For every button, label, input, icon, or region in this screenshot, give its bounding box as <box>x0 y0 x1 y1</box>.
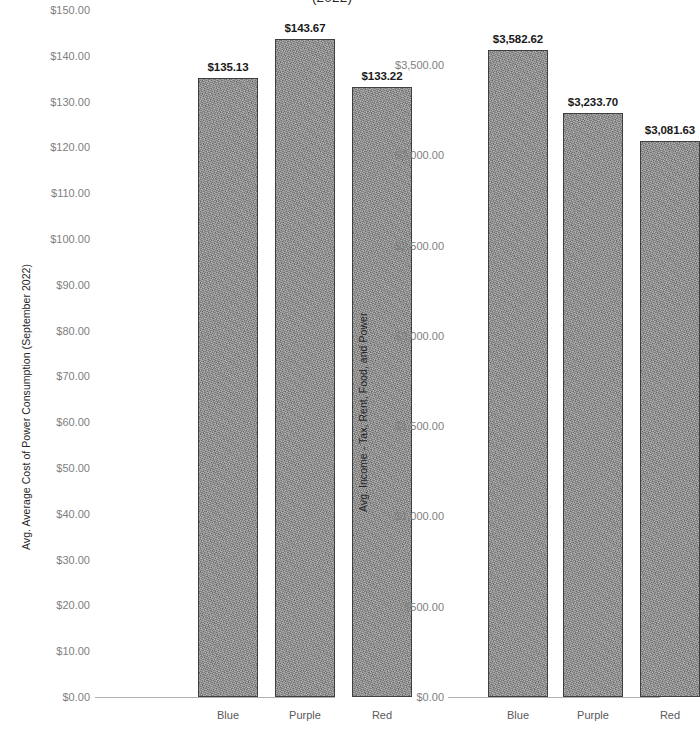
y-axis-ticks-left: $150.00$140.00$130.00$120.00$110.00$100.… <box>22 0 90 730</box>
y-tick-label: $100.00 <box>50 234 90 245</box>
x-axis-line-right <box>448 697 660 698</box>
y-axis-ticks-right: $3,500.00$3,000.00$2,500.00$2,000.00$1,5… <box>358 0 444 730</box>
bar-value-label: $3,233.70 <box>568 96 618 108</box>
y-tick-label: $40.00 <box>56 508 90 519</box>
bar[interactable] <box>275 39 335 697</box>
x-category-label: Purple <box>577 709 609 721</box>
y-tick-label: $20.00 <box>56 600 90 611</box>
y-tick-label: $3,000.00 <box>395 150 444 161</box>
y-tick-label: $0.00 <box>62 692 90 703</box>
bar-value-label: $143.67 <box>285 22 326 34</box>
y-tick-label: $60.00 <box>56 417 90 428</box>
y-tick-label: $110.00 <box>51 188 90 199</box>
x-category-label: Blue <box>507 709 529 721</box>
y-tick-label: $2,500.00 <box>395 240 444 251</box>
bar[interactable] <box>198 78 258 697</box>
y-tick-label: $10.00 <box>56 646 90 657</box>
x-category-label: Purple <box>289 709 321 721</box>
y-tick-label: $500.00 <box>404 601 444 612</box>
x-axis-line-left <box>95 697 335 698</box>
y-tick-label: $70.00 <box>56 371 90 382</box>
bar-value-label: $135.13 <box>208 61 249 73</box>
y-tick-label: $0.00 <box>416 692 444 703</box>
chart-panel-income: Avg. Income - Tax, Rent, Food, and Power… <box>340 0 664 730</box>
y-tick-label: $2,000.00 <box>395 330 444 341</box>
x-category-label: Red <box>660 709 680 721</box>
y-tick-label: $150.00 <box>50 5 90 16</box>
y-tick-label: $30.00 <box>56 554 90 565</box>
y-tick-label: $90.00 <box>56 279 90 290</box>
plot-area-right: $3,582.62Blue$3,233.70Purple$3,081.63Red <box>448 0 660 730</box>
y-tick-label: $1,500.00 <box>395 421 444 432</box>
bar[interactable] <box>563 113 623 697</box>
bar-value-label: $3,582.62 <box>493 33 543 45</box>
x-category-label: Blue <box>217 709 239 721</box>
bar-value-label: $3,081.63 <box>645 124 695 136</box>
plot-area-left: $135.13Blue$143.67Purple$133.22Red <box>95 0 335 730</box>
y-tick-label: $120.00 <box>50 142 90 153</box>
y-tick-label: $1,000.00 <box>395 511 444 522</box>
y-tick-label: $140.00 <box>50 50 90 61</box>
y-tick-label: $3,500.00 <box>395 60 444 71</box>
bar[interactable] <box>640 141 700 697</box>
bar[interactable] <box>488 50 548 697</box>
y-tick-label: $80.00 <box>56 325 90 336</box>
y-tick-label: $50.00 <box>56 463 90 474</box>
y-tick-label: $130.00 <box>50 96 90 107</box>
chart-panel-power-cost: Avg. Average Cost of Power Consumption (… <box>0 0 340 730</box>
